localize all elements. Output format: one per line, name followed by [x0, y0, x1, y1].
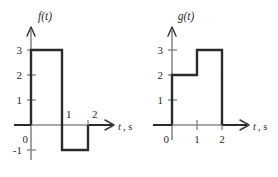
chart-f-of-t: 3 2 1 0 -1 1 2 f(t) t , s [0, 0, 139, 177]
f-waveform-trace [31, 50, 88, 150]
f-y-label-3: 3 [17, 44, 23, 56]
f-y-label-0: 0 [23, 133, 29, 145]
f-y-label-1: 1 [17, 94, 23, 106]
g-waveform-trace [172, 50, 222, 125]
g-y-label-3: 3 [158, 44, 164, 56]
g-x-label-2: 2 [219, 133, 225, 145]
g-x-axis-variable-label: t [253, 121, 257, 132]
f-y-label-2: 2 [17, 69, 23, 81]
g-y-label-0: 0 [164, 133, 170, 145]
f-x-axis-variable-label: t [118, 121, 122, 132]
chart-g-of-t: 3 2 1 0 1 2 g(t) t , s [139, 0, 278, 177]
f-y-label-neg1: -1 [13, 144, 22, 156]
f-x-label-2: 2 [92, 108, 98, 120]
waveform-figure: 3 2 1 0 -1 1 2 f(t) t , s [0, 0, 278, 177]
g-y-label-2: 2 [158, 69, 164, 81]
g-y-label-1: 1 [158, 94, 164, 106]
f-x-label-1: 1 [66, 108, 72, 120]
g-function-label: g(t) [178, 10, 195, 23]
chart-f-svg: 3 2 1 0 -1 1 2 f(t) t , s [0, 0, 139, 177]
f-x-axis-unit-label: , s [123, 121, 132, 132]
g-x-axis-unit-label: , s [258, 121, 267, 132]
f-function-label: f(t) [38, 10, 52, 23]
chart-g-svg: 3 2 1 0 1 2 g(t) t , s [139, 0, 278, 177]
g-x-label-1: 1 [194, 133, 200, 145]
